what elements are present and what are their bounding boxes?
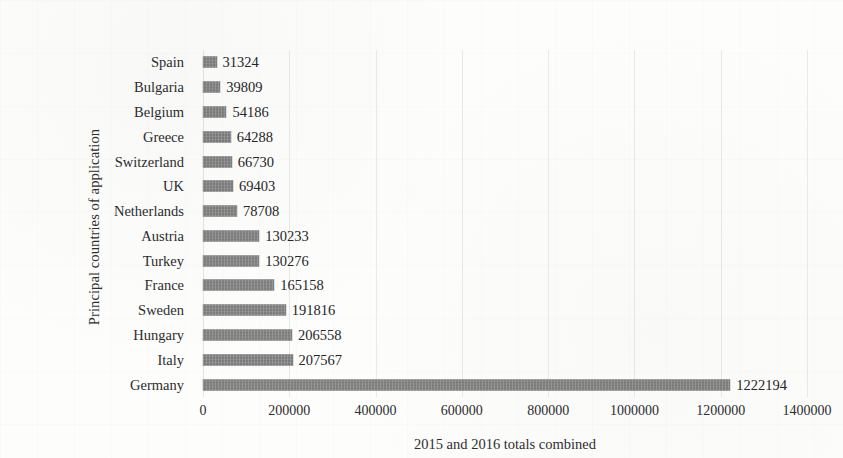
bar-hungary — [203, 330, 292, 341]
category-label-france: France — [40, 277, 192, 293]
category-label-austria: Austria — [40, 228, 192, 244]
bar-row: France165158 — [40, 273, 843, 298]
x-tick-label-0: 0 — [200, 402, 207, 420]
bar-austria — [203, 230, 259, 241]
bar-uk — [203, 181, 233, 192]
bar-value-hungary: 206558 — [298, 327, 342, 343]
bar-value-sweden: 191816 — [292, 302, 336, 318]
bar-rows: Spain31324Bulgaria39809Belgium54186Greec… — [40, 50, 843, 397]
bar-value-austria: 130233 — [265, 228, 309, 244]
x-tick-label-600000: 600000 — [441, 402, 483, 420]
bar-row: Hungary206558 — [40, 323, 843, 348]
bar-value-bulgaria: 39809 — [226, 79, 262, 95]
x-tick-label-400000: 400000 — [355, 402, 397, 420]
category-label-italy: Italy — [40, 352, 192, 368]
category-label-spain: Spain — [40, 54, 192, 70]
bar-row: Turkey130276 — [40, 248, 843, 273]
bar-row: Greece64288 — [40, 124, 843, 149]
x-tick-label-200000: 200000 — [268, 402, 310, 420]
bar-row: Belgium54186 — [40, 100, 843, 125]
category-label-greece: Greece — [40, 129, 192, 145]
bar-belgium — [203, 106, 226, 117]
bar-spain — [203, 57, 217, 68]
category-label-sweden: Sweden — [40, 302, 192, 318]
category-label-turkey: Turkey — [40, 253, 192, 269]
x-tick-label-1000000: 1000000 — [610, 402, 659, 420]
x-tick-label-1200000: 1200000 — [696, 402, 745, 420]
bar-value-spain: 31324 — [223, 54, 259, 70]
bar-value-netherlands: 78708 — [243, 203, 279, 219]
bar-bulgaria — [203, 82, 220, 93]
bar-value-belgium: 54186 — [232, 104, 268, 120]
bar-netherlands — [203, 206, 237, 217]
category-label-bulgaria: Bulgaria — [40, 79, 192, 95]
bar-value-germany: 1222194 — [736, 377, 787, 393]
bar-value-turkey: 130276 — [265, 253, 309, 269]
x-axis-tick-labels: 0200000400000600000800000100000012000001… — [40, 402, 843, 422]
bar-row: Bulgaria39809 — [40, 75, 843, 100]
x-tick-label-1400000: 1400000 — [783, 402, 832, 420]
category-label-uk: UK — [40, 178, 192, 194]
bar-row: Sweden191816 — [40, 298, 843, 323]
bar-row: Spain31324 — [40, 50, 843, 75]
bar-france — [203, 280, 274, 291]
bar-sweden — [203, 305, 286, 316]
category-label-hungary: Hungary — [40, 327, 192, 343]
bar-value-greece: 64288 — [237, 129, 273, 145]
bar-row: Switzerland66730 — [40, 149, 843, 174]
bar-row: Italy207567 — [40, 347, 843, 372]
bar-greece — [203, 131, 231, 142]
bar-row: UK69403 — [40, 174, 843, 199]
category-label-switzerland: Switzerland — [40, 154, 192, 170]
bar-value-france: 165158 — [280, 277, 324, 293]
bar-germany — [203, 379, 730, 390]
bar-row: Netherlands78708 — [40, 199, 843, 224]
x-tick-label-800000: 800000 — [527, 402, 569, 420]
bar-value-switzerland: 66730 — [238, 154, 274, 170]
category-label-belgium: Belgium — [40, 104, 192, 120]
bar-italy — [203, 354, 293, 365]
bar-value-italy: 207567 — [299, 352, 343, 368]
category-label-netherlands: Netherlands — [40, 203, 192, 219]
bar-switzerland — [203, 156, 232, 167]
bar-value-uk: 69403 — [239, 178, 275, 194]
bar-row: Germany1222194 — [40, 372, 843, 397]
category-label-germany: Germany — [40, 377, 192, 393]
bar-row: Austria130233 — [40, 224, 843, 249]
bar-turkey — [203, 255, 259, 266]
x-axis-title: 2015 and 2016 totals combined — [203, 436, 807, 453]
horizontal-bar-chart: Principal countries of application Spain… — [40, 16, 843, 458]
